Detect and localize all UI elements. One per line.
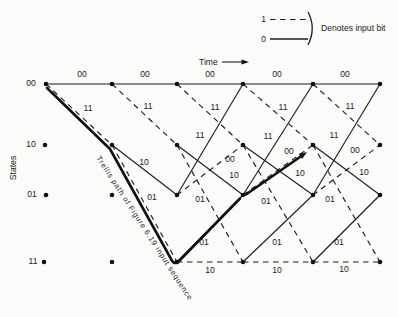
branch-labels: 00 00 00 00 00 11 11 11 11 11 10 10 10 1… xyxy=(77,69,369,275)
branch-output-label: 11 xyxy=(279,102,288,112)
trellis-node xyxy=(43,143,48,148)
legend: 1 0 Denotes input bit xyxy=(261,12,386,45)
branch-line xyxy=(313,195,380,262)
trellis-node xyxy=(241,82,246,87)
legend-zero-label: 0 xyxy=(261,34,266,44)
legend-caption: Denotes input bit xyxy=(321,23,386,33)
branch-output-label: 01 xyxy=(199,237,209,247)
trellis-node xyxy=(311,143,316,148)
branch-line xyxy=(112,84,177,145)
branch-output-label: 00 xyxy=(205,69,215,79)
trellis-node xyxy=(175,193,180,198)
branch-output-label: 01 xyxy=(261,196,271,206)
branch-output-label: 01 xyxy=(272,237,282,247)
branch-line xyxy=(243,195,313,262)
trellis-node xyxy=(311,193,316,198)
time-arrowhead-icon xyxy=(242,60,250,65)
branch-line xyxy=(46,84,112,145)
branch-line xyxy=(243,84,313,195)
states-axis-label: States xyxy=(8,156,18,180)
branch-output-label: 10 xyxy=(295,168,305,178)
branch-output-label: 01 xyxy=(334,237,344,247)
branch-output-label: 10 xyxy=(339,264,349,274)
branch-output-label: 11 xyxy=(144,101,153,111)
trellis-node xyxy=(175,82,180,87)
trellis-node xyxy=(44,193,49,198)
time-axis: Time xyxy=(199,57,249,67)
branch-line xyxy=(313,84,380,145)
trellis-node xyxy=(378,193,383,198)
trellis-svg: 1 0 Denotes input bit Time States 00 10 … xyxy=(0,0,398,317)
trellis-node xyxy=(110,260,115,265)
state-labels: 00 10 01 11 xyxy=(26,78,37,266)
branch-output-label: 10 xyxy=(139,157,149,167)
highlighted-path xyxy=(47,88,307,263)
trellis-node xyxy=(110,143,115,148)
branch-output-label: 10 xyxy=(359,167,369,177)
trellis-node xyxy=(241,193,246,198)
branch-output-label: 11 xyxy=(84,103,93,113)
branch-output-label: 00 xyxy=(77,69,87,79)
trellis-node xyxy=(241,143,246,148)
legend-one-label: 1 xyxy=(261,14,266,24)
trellis-node xyxy=(311,260,316,265)
branch-line xyxy=(177,84,243,145)
trellis-node xyxy=(110,82,115,87)
branch-line xyxy=(243,84,313,145)
trellis-node xyxy=(175,143,180,148)
branch-output-label: 11 xyxy=(330,130,339,140)
trellis-node xyxy=(110,193,115,198)
state-label-11: 11 xyxy=(29,256,38,266)
trellis-node xyxy=(241,260,246,265)
state-label-10: 10 xyxy=(26,139,36,149)
legend-brace xyxy=(308,12,312,45)
trellis-node xyxy=(378,82,383,87)
branch-line xyxy=(313,145,380,262)
trellis-figure: 1 0 Denotes input bit Time States 00 10 … xyxy=(0,0,398,317)
branch-output-label: 00 xyxy=(350,145,360,155)
trellis-node xyxy=(44,82,49,87)
trellis-node xyxy=(311,82,316,87)
branch-output-label: 00 xyxy=(272,69,282,79)
branch-output-label: 00 xyxy=(340,69,350,79)
branch-output-label: 10 xyxy=(229,170,239,180)
branch-output-label: 01 xyxy=(325,194,335,204)
branch-output-label: 11 xyxy=(211,102,220,112)
trellis-node xyxy=(42,260,47,265)
branch-output-label: 10 xyxy=(272,265,282,275)
trellis-node xyxy=(378,143,383,148)
branch-output-label: 11 xyxy=(346,101,355,111)
branch-output-label: 00 xyxy=(140,69,150,79)
path-annotation: Trellis path of Figure 6.19 input sequen… xyxy=(94,154,194,301)
state-label-00: 00 xyxy=(26,78,36,88)
branch-output-label: 01 xyxy=(147,192,157,202)
branch-output-label: 10 xyxy=(205,265,215,275)
state-label-01: 01 xyxy=(27,189,37,199)
time-label: Time xyxy=(199,57,218,67)
branch-output-label: 00 xyxy=(225,154,235,164)
branch-output-label: 11 xyxy=(196,130,205,140)
branch-output-label: 00 xyxy=(284,146,294,156)
trellis-node xyxy=(175,260,180,265)
trellis-node xyxy=(378,260,383,265)
branch-output-label: 11 xyxy=(264,131,273,141)
branch-output-label: 01 xyxy=(195,194,205,204)
